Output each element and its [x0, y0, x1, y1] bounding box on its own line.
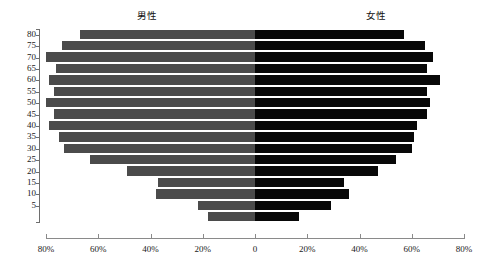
- bar-male: [80, 30, 255, 40]
- bar-female: [255, 121, 417, 131]
- x-axis-tick-label: 0: [233, 244, 277, 254]
- bar-row: [0, 177, 485, 188]
- bar-female: [255, 87, 427, 97]
- y-axis-tick-label: 20: [2, 167, 36, 176]
- bar-female: [255, 178, 344, 188]
- bar-female: [255, 98, 430, 108]
- x-axis-tick: [203, 234, 204, 239]
- bar-female: [255, 75, 440, 85]
- y-axis-tick-label: 80: [2, 30, 36, 39]
- bar-male: [208, 212, 255, 222]
- x-axis-tick-label: 60%: [76, 244, 120, 254]
- y-axis-tick-label: 30: [2, 144, 36, 153]
- y-axis-tick: [36, 194, 40, 195]
- bar-male: [198, 201, 255, 211]
- x-axis-tick: [412, 234, 413, 239]
- y-axis-tick: [36, 126, 40, 127]
- bar-male: [56, 64, 255, 74]
- y-axis-tick-label: 25: [2, 155, 36, 164]
- bar-row: [0, 75, 485, 86]
- y-axis-cap-top: [36, 29, 40, 30]
- bar-female: [255, 166, 378, 176]
- y-axis-tick-label: 35: [2, 132, 36, 141]
- bar-row: [0, 189, 485, 200]
- bar-row: [0, 120, 485, 131]
- x-axis-tick: [151, 234, 152, 239]
- y-axis-tick: [36, 137, 40, 138]
- y-axis-tick-label: 40: [2, 121, 36, 130]
- y-axis-tick: [36, 183, 40, 184]
- bar-female: [255, 64, 427, 74]
- x-axis-tick: [464, 234, 465, 239]
- y-axis-tick: [36, 160, 40, 161]
- y-axis-tick-label: 75: [2, 41, 36, 50]
- y-axis-tick: [36, 69, 40, 70]
- bar-male: [156, 189, 255, 199]
- x-axis-tick-label: 40%: [129, 244, 173, 254]
- y-axis-tick-label: 15: [2, 178, 36, 187]
- x-axis-tick: [46, 234, 47, 239]
- bar-male: [62, 41, 255, 51]
- bar-row: [0, 154, 485, 165]
- bar-male: [49, 121, 255, 131]
- bar-male: [90, 155, 255, 165]
- bar-female: [255, 52, 433, 62]
- x-axis-tick-label: 60%: [390, 244, 434, 254]
- y-axis-cap-bottom: [36, 222, 40, 223]
- bar-row: [0, 132, 485, 143]
- bar-female: [255, 30, 404, 40]
- x-axis-tick: [98, 234, 99, 239]
- y-axis-tick-label: 45: [2, 110, 36, 119]
- bar-male: [49, 75, 255, 85]
- y-axis-tick: [36, 46, 40, 47]
- y-axis-tick: [36, 92, 40, 93]
- bar-row: [0, 211, 485, 222]
- y-axis-tick-label: 50: [2, 98, 36, 107]
- bar-row: [0, 109, 485, 120]
- y-axis-tick-label: 70: [2, 53, 36, 62]
- bar-male: [54, 87, 255, 97]
- plot-area: [0, 0, 485, 263]
- bar-female: [255, 201, 331, 211]
- x-axis-tick-label: 80%: [24, 244, 68, 254]
- population-pyramid-chart: 男性 女性 8075706560555045403530252015105 80…: [0, 0, 485, 263]
- y-axis-tick-label: 55: [2, 87, 36, 96]
- bar-row: [0, 63, 485, 74]
- y-axis-tick: [36, 80, 40, 81]
- bar-male: [54, 109, 255, 119]
- bar-male: [59, 132, 255, 142]
- bar-male: [127, 166, 255, 176]
- bar-row: [0, 29, 485, 40]
- x-axis-tick-label: 20%: [285, 244, 329, 254]
- y-axis-tick: [36, 115, 40, 116]
- bar-male: [158, 178, 255, 188]
- x-axis-tick: [307, 234, 308, 239]
- bar-female: [255, 109, 427, 119]
- bar-female: [255, 132, 414, 142]
- y-axis-tick-label: 65: [2, 64, 36, 73]
- bar-male: [64, 144, 255, 154]
- bar-row: [0, 52, 485, 63]
- y-axis-labels: 8075706560555045403530252015105: [0, 0, 36, 263]
- bar-female: [255, 155, 396, 165]
- x-axis-tick-label: 20%: [181, 244, 225, 254]
- x-axis-tick: [360, 234, 361, 239]
- bar-row: [0, 40, 485, 51]
- y-axis-tick-label: 5: [2, 201, 36, 210]
- y-axis-tick: [36, 35, 40, 36]
- bar-male: [46, 98, 255, 108]
- y-axis-tick: [36, 149, 40, 150]
- y-axis-tick: [36, 206, 40, 207]
- y-axis-tick-label: 10: [2, 189, 36, 198]
- bar-male: [46, 52, 255, 62]
- y-axis-tick: [36, 172, 40, 173]
- y-axis-tick: [36, 58, 40, 59]
- bar-female: [255, 212, 299, 222]
- x-axis-tick-label: 80%: [442, 244, 485, 254]
- bar-row: [0, 86, 485, 97]
- bar-row: [0, 97, 485, 108]
- y-axis-tick: [36, 103, 40, 104]
- bar-row: [0, 166, 485, 177]
- y-axis-tick-label: 60: [2, 75, 36, 84]
- bar-row: [0, 143, 485, 154]
